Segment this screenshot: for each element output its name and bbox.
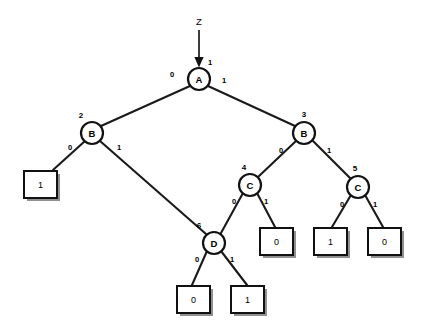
node-index-label: 3	[302, 110, 307, 119]
edge-value-label: 0	[195, 255, 199, 264]
root-output-label: Z	[196, 16, 202, 27]
bdd-svg-root: 010101010101Z1101001AB2B3C4C5D6	[0, 0, 422, 331]
edge-value-label: 1	[327, 146, 331, 155]
node-variable-label: A	[196, 74, 203, 85]
edge-value-label: 1	[373, 200, 377, 209]
bdd-edge-b2-c2	[313, 141, 351, 179]
edge-value-label: 1	[230, 255, 234, 264]
bdd-edge-b2-c1	[258, 141, 296, 177]
edge-value-label: 0	[340, 200, 344, 209]
edge-line	[313, 141, 351, 179]
bdd-edge-b1-d	[100, 141, 206, 234]
node-variable-label: B	[301, 128, 308, 139]
node-index-label: 2	[79, 111, 84, 120]
terminal-value-label: 0	[191, 295, 196, 305]
node-index-label: 6	[197, 221, 202, 230]
node-index-label: 5	[353, 164, 358, 173]
edge-line	[100, 141, 206, 234]
terminal-value-label: 1	[328, 237, 333, 247]
bdd-diagram-canvas: 010101010101Z1101001AB2B3C4C5D6	[0, 0, 422, 331]
label-layer: 010101010101Z1101001AB2B3C4C5D6	[38, 16, 387, 306]
edge-line	[258, 141, 296, 177]
terminal-value-label: 1	[38, 180, 43, 190]
edge-value-label: 0	[279, 146, 283, 155]
node-variable-label: B	[89, 128, 96, 139]
node-variable-label: C	[355, 182, 362, 193]
edge-value-label: 0	[232, 197, 236, 206]
edge-value-label: 0	[68, 143, 72, 152]
terminal-value-label: 0	[382, 237, 387, 247]
node-variable-label: D	[211, 238, 218, 249]
root-arrow-head	[194, 57, 203, 68]
edge-value-label: 0	[170, 70, 174, 79]
bdd-edge-a-b2	[208, 86, 295, 126]
node-index-label: 4	[242, 163, 247, 172]
terminal-value-label: 1	[245, 295, 250, 305]
terminal-value-label: 0	[274, 237, 279, 247]
edge-value-label: 1	[117, 143, 121, 152]
edge-value-label: 1	[222, 76, 226, 85]
root-arrow-layer	[194, 30, 203, 68]
node-variable-label: C	[247, 180, 254, 191]
bdd-edge-a-b1	[101, 86, 190, 126]
root-edge-value-label: 1	[208, 58, 212, 67]
edge-line	[101, 86, 190, 126]
edge-value-label: 1	[264, 197, 268, 206]
edge-line	[208, 86, 295, 126]
